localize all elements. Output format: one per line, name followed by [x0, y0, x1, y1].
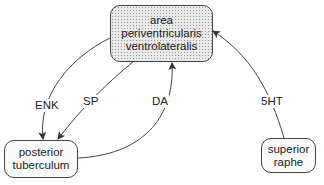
- node-line: ventrolateralis: [126, 40, 198, 53]
- node-area-periventricularis-ventrolateralis: area periventricularis ventrolateralis: [110, 5, 213, 62]
- edge-label-5ht: 5HT: [260, 95, 284, 108]
- edge-label-enk: ENK: [34, 99, 60, 112]
- node-line: tuberculum: [13, 159, 70, 172]
- node-line: raphe: [274, 156, 303, 169]
- node-line: posterior: [19, 146, 64, 159]
- edge-label-sp: SP: [82, 95, 99, 108]
- node-posterior-tuberculum: posterior tuberculum: [4, 140, 78, 178]
- node-line: superior: [268, 143, 310, 156]
- edge-enk: [42, 38, 110, 139]
- node-superior-raphe: superior raphe: [261, 138, 316, 173]
- node-line: periventricularis: [121, 27, 202, 40]
- node-line: area: [150, 14, 173, 27]
- edge-da: [78, 63, 172, 158]
- edge-5ht: [213, 31, 284, 138]
- edge-label-da: DA: [151, 95, 169, 108]
